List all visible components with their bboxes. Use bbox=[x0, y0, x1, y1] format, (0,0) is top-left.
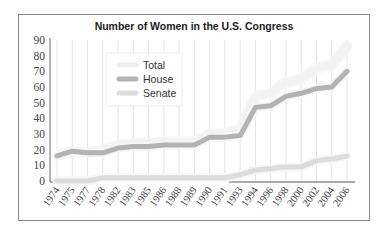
line-chart: 0102030405060708090 19741975197719781982… bbox=[0, 0, 387, 232]
legend: TotalHouseSenate bbox=[106, 53, 182, 106]
y-tick-label: 20 bbox=[34, 144, 46, 156]
legend-label-senate: Senate bbox=[143, 87, 176, 99]
y-tick-label: 80 bbox=[34, 50, 46, 62]
y-tick-label: 70 bbox=[34, 65, 46, 77]
x-tick-label: 2006 bbox=[331, 185, 352, 209]
y-tick-label: 40 bbox=[34, 112, 46, 124]
series-line-senate bbox=[57, 156, 347, 181]
y-tick-label: 90 bbox=[34, 34, 46, 46]
legend-label-total: Total bbox=[143, 59, 165, 71]
series-lines bbox=[57, 46, 347, 181]
y-tick-label: 0 bbox=[39, 175, 45, 187]
y-tick-label: 50 bbox=[34, 97, 46, 109]
legend-label-house: House bbox=[143, 73, 174, 85]
y-tick-label: 60 bbox=[34, 81, 46, 93]
x-axis: 1974197519771978198219831985198619881989… bbox=[41, 182, 355, 208]
y-tick-label: 10 bbox=[34, 159, 46, 171]
y-axis: 0102030405060708090 bbox=[34, 34, 57, 187]
y-tick-label: 30 bbox=[34, 128, 46, 140]
vertical-gridlines bbox=[57, 40, 347, 181]
